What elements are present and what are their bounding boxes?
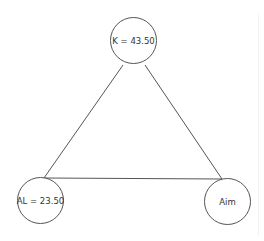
node-al[interactable]: AL = 23.50 [17,177,64,224]
node-k-label: K = 43.50 [112,36,154,46]
node-aim-label: Aim [219,197,235,207]
diagram-canvas: K = 43.50 AL = 23.50 Aim [0,0,264,241]
node-al-label: AL = 23.50 [17,196,64,206]
edge-al-aim [44,178,222,179]
edge-k-al [44,65,123,178]
edge-k-aim [145,65,222,179]
node-aim[interactable]: Aim [204,178,251,225]
node-k[interactable]: K = 43.50 [110,17,157,64]
